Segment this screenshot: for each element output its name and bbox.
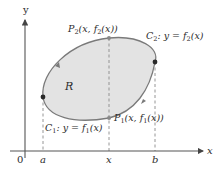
direction-arrow-icon [141, 99, 146, 104]
tick-label-x: x [106, 154, 112, 165]
c2-eq-prefix: : y = f [157, 30, 188, 41]
point-right-b [153, 60, 158, 65]
tick-label-a: a [40, 154, 46, 165]
tick-label-b: b [152, 154, 158, 165]
p1-coord-prefix: (x, f [125, 112, 145, 123]
point-left-a [41, 95, 46, 100]
region-r [43, 38, 156, 121]
c1-label: C1: y = f1(x) [45, 122, 103, 135]
y-axis-label: y [22, 4, 29, 15]
c1-eq-suffix: (x) [90, 122, 103, 133]
p1-coord-suffix: (x)) [147, 112, 164, 123]
p2-coord-prefix: (x, f [79, 23, 99, 34]
green-theorem-region-diagram: y x 0 a x b R P2(x, f2(x)) C2: y = f2(x)… [0, 0, 220, 177]
x-axis-label: x [207, 145, 213, 156]
c2-eq-suffix: (x) [191, 30, 204, 41]
point-p1 [107, 116, 111, 120]
c1-eq-prefix: : y = f [56, 122, 87, 133]
p2-coord-suffix: (x)) [101, 23, 118, 34]
c2-label: C2: y = f2(x) [146, 30, 204, 43]
p2-label: P2(x, f2(x)) [67, 23, 118, 36]
region-label: R [64, 80, 73, 93]
origin-label: 0 [17, 154, 23, 165]
point-p2 [107, 36, 111, 40]
